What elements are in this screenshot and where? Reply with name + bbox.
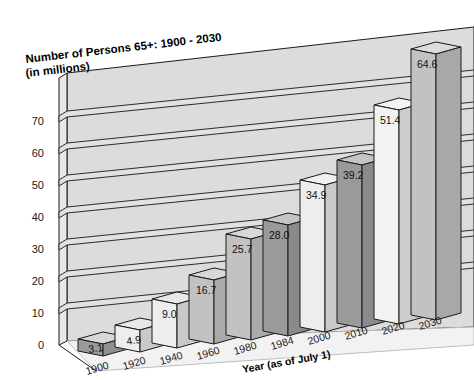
y-tick-label-0: 0 [38, 339, 44, 351]
y-tick-label-20: 20 [32, 275, 44, 287]
bar-side-face [436, 47, 461, 320]
bar-value-label: 25.7 [232, 243, 253, 255]
bar-front-face [411, 49, 436, 320]
bar-front-face [374, 105, 399, 324]
chart-container: 0 10 20 30 40 50 60 70 3.1 4.9 [0, 0, 474, 381]
y-tick-label-60: 60 [32, 147, 44, 159]
bar-chart-3d: 0 10 20 30 40 50 60 70 3.1 4.9 [0, 0, 474, 381]
bar-value-label: 4.9 [125, 333, 141, 347]
bar-value-label: 9.0 [162, 308, 177, 320]
y-tick-label-70: 70 [32, 115, 44, 127]
y-tick-label-40: 40 [32, 211, 44, 223]
bar-value-label: 51.4 [380, 114, 401, 126]
bar-front-face [152, 299, 177, 348]
y-tick-label-30: 30 [32, 243, 44, 255]
bar-front-face [337, 160, 362, 328]
y-tick-label-50: 50 [32, 179, 44, 191]
bar-value-label: 34.9 [306, 189, 327, 201]
bar-value-label: 16.7 [196, 284, 217, 296]
bar-value-label: 28.0 [269, 229, 290, 241]
bar-front-face [300, 180, 325, 332]
bar-value-label: 39.2 [343, 169, 364, 181]
y-tick-label-10: 10 [32, 307, 44, 319]
bar-value-label: 3.1 [87, 341, 103, 355]
bar-value-label: 64.6 [417, 58, 438, 70]
bar-2030[interactable]: 64.6 [411, 42, 461, 320]
